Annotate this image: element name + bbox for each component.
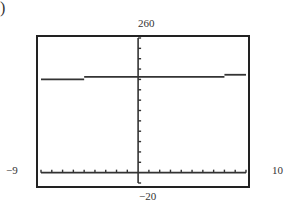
chart-plot (0, 0, 286, 213)
axes (41, 38, 246, 183)
window-frame (37, 36, 249, 187)
series-step-function (41, 75, 246, 80)
